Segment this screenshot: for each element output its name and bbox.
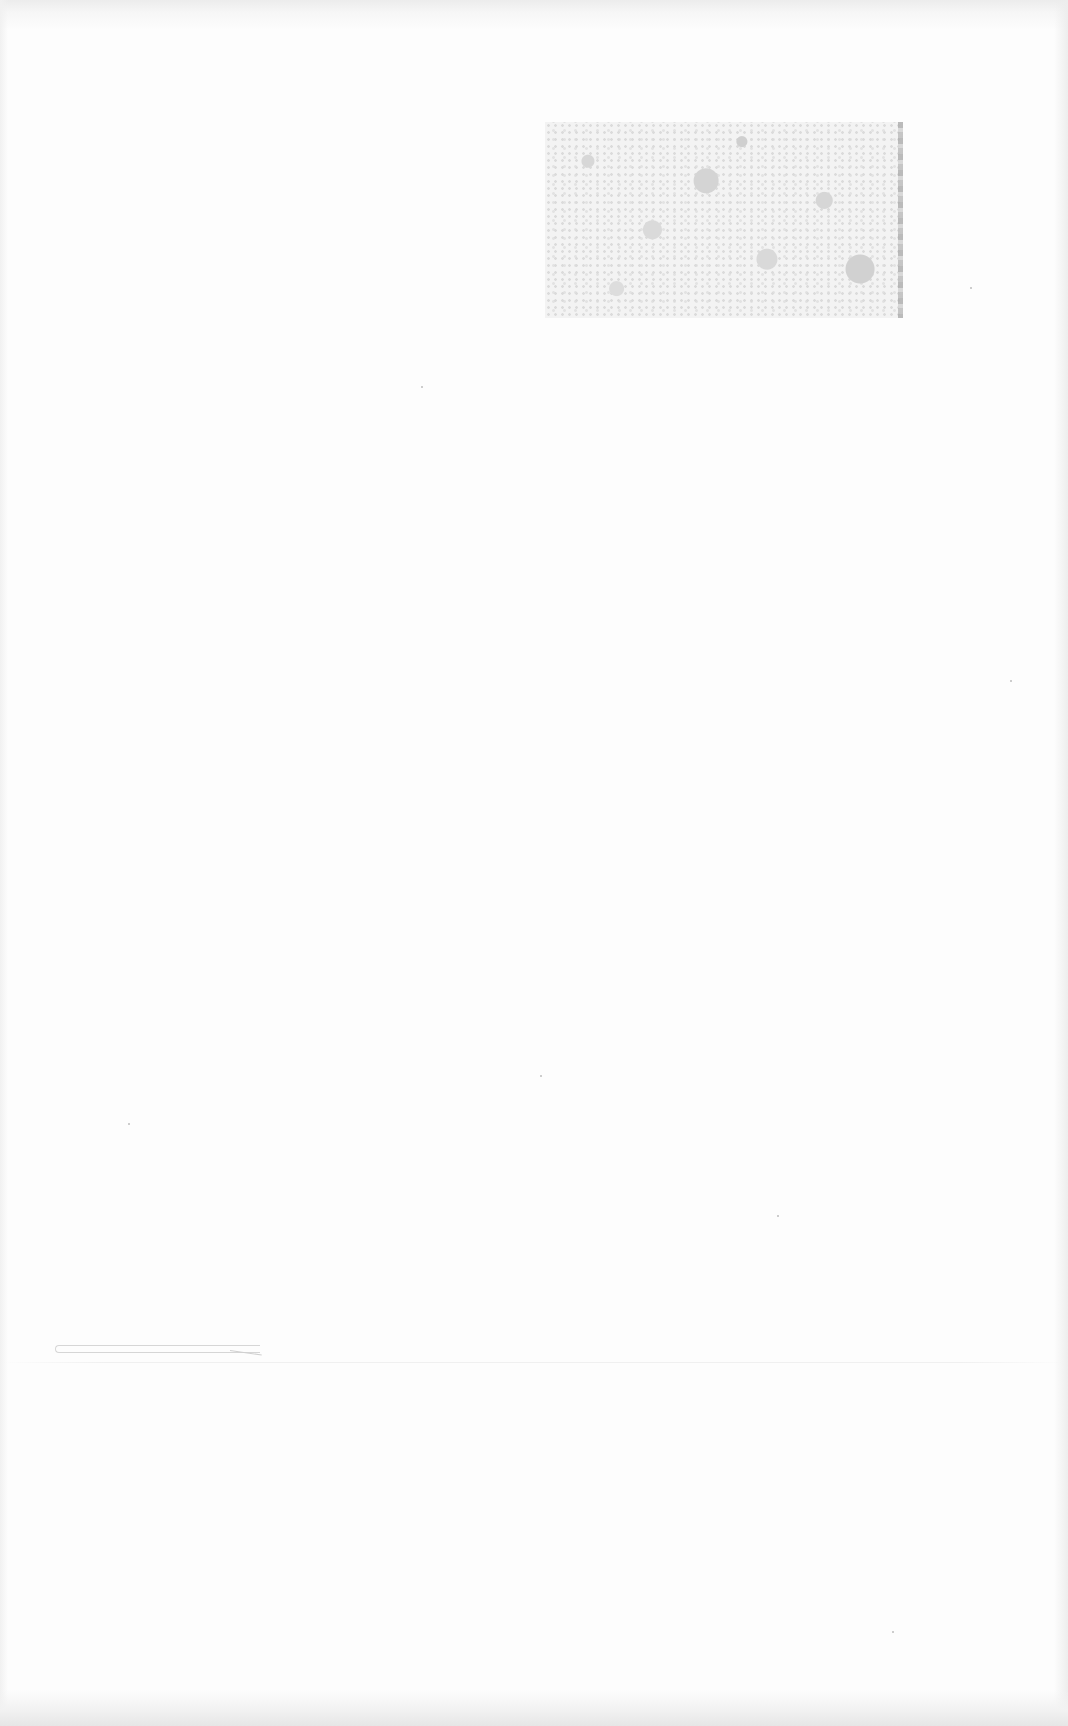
dust-speck <box>777 1215 779 1217</box>
scan-edge-shading-bottom <box>0 1690 1068 1726</box>
faint-horizontal-rule <box>0 1362 1068 1363</box>
dust-speck <box>421 386 423 388</box>
scan-edge-shading-left <box>0 0 8 1726</box>
dust-speck <box>540 1075 542 1077</box>
scan-edge-shading-top <box>0 0 1068 30</box>
faded-photo-plate <box>545 122 903 318</box>
dust-speck <box>128 1123 130 1125</box>
dust-speck <box>1010 680 1012 682</box>
scan-edge-shading-right <box>1054 0 1068 1726</box>
dust-speck <box>892 1631 894 1633</box>
dust-speck <box>970 287 972 289</box>
plate-dark-edge <box>898 122 903 318</box>
